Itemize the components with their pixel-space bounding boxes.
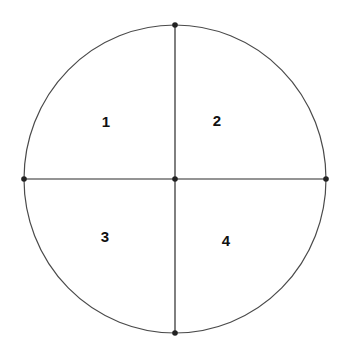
point-top <box>172 22 178 28</box>
quadrant-label-1: 1 <box>102 113 110 130</box>
quadrant-label-4: 4 <box>222 232 231 249</box>
quadrant-label-2: 2 <box>213 112 221 129</box>
point-center <box>172 176 178 182</box>
quadrant-circle-diagram: 1 2 3 4 <box>0 0 350 357</box>
quadrant-label-3: 3 <box>101 228 109 245</box>
point-right <box>323 176 329 182</box>
point-bottom <box>172 330 178 336</box>
point-left <box>21 176 27 182</box>
